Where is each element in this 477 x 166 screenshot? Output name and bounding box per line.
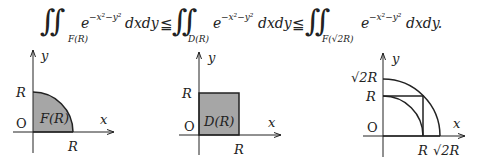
formula: ∬ F(R) e −x²−y² dxdy ≦ ∬ D(R) e −x²−y² d… (40, 3, 442, 44)
y-axis-label: y (391, 51, 400, 66)
double-integral-sign: ∬ (172, 3, 198, 38)
inner-arc (383, 96, 423, 136)
integral-term-2: ∬ D(R) e −x²−y² dxdy (172, 3, 293, 44)
origin-label: O (184, 119, 195, 134)
region-subscript: D(R) (187, 34, 210, 44)
region-label: F(R) (39, 111, 69, 126)
diagram-nested-regions: y x O R √2R R √2R (351, 51, 465, 158)
region-subscript: F(√2R) (321, 34, 354, 44)
double-integral-sign: ∬ (40, 3, 66, 38)
diagram-square: y x O R R D(R) (179, 50, 281, 157)
region-subscript: F(R) (67, 34, 89, 44)
y-axis-label: y (207, 50, 216, 65)
integrand-exponent: −x²−y² (221, 12, 254, 22)
origin-label: O (16, 116, 27, 131)
y-tick-label: R (181, 86, 192, 101)
integral-term-1: ∬ F(R) e −x²−y² dxdy (40, 3, 160, 44)
x-axis-label: x (453, 116, 461, 131)
y-tick-label-sqrt2r: √2R (351, 70, 378, 85)
integral-term-3: ∬ F(√2R) e −x²−y² dxdy. (305, 3, 442, 44)
region-label: D(R) (203, 114, 234, 129)
figure: ∬ F(R) e −x²−y² dxdy ≦ ∬ D(R) e −x²−y² d… (0, 0, 477, 166)
x-tick-label: R (233, 142, 244, 157)
differential: dxdy (125, 15, 160, 31)
y-tick-label: R (15, 85, 26, 100)
x-axis-label: x (268, 115, 276, 130)
y-axis-label: y (40, 48, 49, 63)
origin-label: O (367, 120, 378, 135)
x-tick-label: R (67, 139, 78, 154)
integrand-exponent: −x²−y² (369, 12, 402, 22)
diagram-quarter-disk: y x O R R F(R) (13, 48, 114, 154)
y-tick-label-r: R (365, 89, 376, 104)
differential: dxdy (258, 15, 293, 31)
x-tick-label-r: R (417, 143, 428, 158)
x-axis-label: x (100, 112, 108, 127)
differential: dxdy. (406, 15, 442, 31)
integrand-exponent: −x²−y² (89, 12, 122, 22)
x-tick-label-sqrt2r: √2R (433, 143, 460, 158)
relation-leq-2: ≦ (292, 15, 305, 33)
double-integral-sign: ∬ (305, 3, 331, 38)
